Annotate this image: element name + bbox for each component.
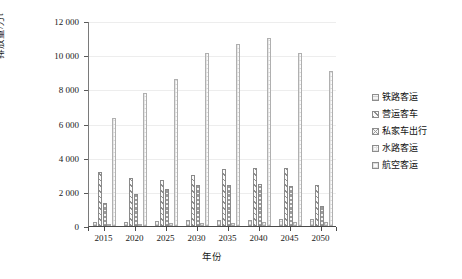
bar	[217, 220, 221, 226]
bar	[329, 71, 333, 226]
bar	[222, 169, 226, 226]
bar	[227, 185, 231, 226]
legend-label: 私家车出行	[382, 127, 427, 136]
legend-swatch-icon	[372, 128, 379, 135]
x-tick-label: 2035	[219, 233, 237, 243]
legend-item[interactable]: 营运客车	[372, 110, 427, 119]
bar	[93, 222, 97, 226]
y-tick-label: 6 000	[0, 121, 79, 130]
bar	[112, 118, 116, 226]
y-tick-label: 4 000	[0, 155, 79, 164]
x-axis-title: 年份	[88, 249, 336, 263]
x-tick-mark	[166, 227, 167, 231]
chart-figure: 排放量/万t 02 0004 0006 0008 00010 00012 000…	[0, 0, 462, 279]
bar	[258, 184, 262, 226]
x-tick-mark	[104, 227, 105, 231]
y-tick-label: 2 000	[0, 189, 79, 198]
bar	[160, 180, 164, 226]
bar	[267, 38, 271, 226]
bar	[324, 222, 328, 226]
x-tick-mark	[88, 227, 89, 231]
bar	[174, 79, 178, 226]
chart-legend: 铁路客运营运客车私家车出行水路客运航空客运	[372, 93, 427, 178]
legend-swatch-icon	[372, 94, 379, 101]
legend-swatch-icon	[372, 162, 379, 169]
x-tick-label: 2015	[95, 233, 113, 243]
bar	[134, 194, 138, 226]
x-tick-mark	[290, 227, 291, 231]
gridline	[89, 22, 336, 23]
y-tick-label: 8 000	[0, 86, 79, 95]
bar	[320, 206, 324, 226]
x-tick-mark	[197, 227, 198, 231]
y-tick-label: 0	[0, 223, 79, 232]
plot-area	[88, 22, 336, 227]
bar	[284, 168, 288, 226]
legend-label: 营运客车	[382, 110, 418, 119]
bar	[138, 224, 142, 226]
bar	[262, 222, 266, 226]
bar	[298, 53, 302, 226]
x-tick-label: 2040	[250, 233, 268, 243]
legend-item[interactable]: 私家车出行	[372, 127, 427, 136]
bar	[196, 185, 200, 226]
legend-item[interactable]: 水路客运	[372, 144, 427, 153]
x-tick-label: 2030	[188, 233, 206, 243]
bar	[248, 220, 252, 226]
x-tick-mark	[259, 227, 260, 231]
y-axis-title: 排放量/万t	[0, 0, 6, 96]
bar	[205, 53, 209, 226]
bar	[186, 220, 190, 226]
bar	[165, 189, 169, 226]
legend-swatch-icon	[372, 145, 379, 152]
bar	[169, 223, 173, 226]
legend-label: 航空客运	[382, 161, 418, 170]
bar	[310, 219, 314, 226]
bar	[279, 219, 283, 226]
x-tick-mark	[228, 227, 229, 231]
bar	[155, 221, 159, 226]
y-tick-label: 10 000	[0, 52, 79, 61]
bar	[98, 172, 102, 226]
legend-item[interactable]: 航空客运	[372, 161, 427, 170]
bar	[293, 222, 297, 226]
bar	[236, 44, 240, 226]
bar	[191, 175, 195, 226]
x-tick-label: 2050	[312, 233, 330, 243]
legend-item[interactable]: 铁路客运	[372, 93, 427, 102]
bar	[143, 93, 147, 226]
x-tick-mark	[336, 227, 337, 231]
x-tick-label: 2025	[157, 233, 175, 243]
legend-label: 水路客运	[382, 144, 418, 153]
x-tick-mark	[321, 227, 322, 231]
x-tick-label: 2020	[126, 233, 144, 243]
legend-label: 铁路客运	[382, 93, 418, 102]
bar	[200, 223, 204, 226]
bar	[129, 178, 133, 226]
bar	[107, 224, 111, 226]
bar	[289, 186, 293, 226]
x-tick-mark	[135, 227, 136, 231]
x-tick-label: 2045	[281, 233, 299, 243]
y-tick-label: 12 000	[0, 18, 79, 27]
bar	[231, 223, 235, 226]
bar	[103, 203, 107, 226]
bar	[253, 168, 257, 226]
bar	[124, 222, 128, 226]
bar	[315, 185, 319, 226]
legend-swatch-icon	[372, 111, 379, 118]
